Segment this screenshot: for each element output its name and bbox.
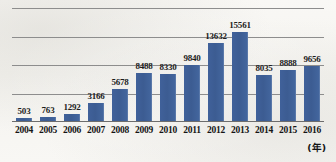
- bar-value-label: 763: [42, 106, 55, 115]
- bar-slot: 8330: [156, 8, 180, 121]
- bar-value-label: 9840: [183, 54, 200, 63]
- x-tick-label: 2014: [252, 125, 276, 136]
- bar: [256, 75, 272, 121]
- x-tick-label: 2006: [60, 125, 84, 136]
- bar-value-label: 8330: [159, 63, 176, 72]
- plot-area: 5037631292316656788488833098401363215561…: [12, 8, 324, 122]
- bar-value-label: 1292: [63, 103, 80, 112]
- x-tick-label: 2016: [300, 125, 324, 136]
- x-tick-label: 2011: [180, 125, 204, 136]
- bar-slot: 8035: [252, 8, 276, 121]
- bar-slot: 1292: [60, 8, 84, 121]
- bar-value-label: 15561: [229, 21, 251, 30]
- bar-value-label: 13632: [205, 32, 227, 41]
- x-tick-label: 2004: [12, 125, 36, 136]
- bar: [88, 103, 104, 121]
- x-tick-label: 2009: [132, 125, 156, 136]
- x-tick-label: 2005: [36, 125, 60, 136]
- bar: [112, 89, 128, 121]
- bar-slot: 15561: [228, 8, 252, 121]
- bar: [184, 65, 200, 121]
- bar-value-label: 8888: [279, 59, 296, 68]
- bar-value-label: 503: [18, 107, 31, 116]
- bar: [280, 70, 296, 121]
- bar: [208, 43, 224, 121]
- bar: [232, 32, 248, 121]
- bar: [304, 66, 320, 121]
- bar-slot: 503: [12, 8, 36, 121]
- x-tick-label: 2013: [228, 125, 252, 136]
- bar-slot: 3166: [84, 8, 108, 121]
- x-tick-label: 2010: [156, 125, 180, 136]
- bar-value-label: 8488: [135, 62, 152, 71]
- bar-value-label: 8035: [255, 64, 272, 73]
- bar: [160, 74, 176, 121]
- bar-slot: 5678: [108, 8, 132, 121]
- bar-slot: 763: [36, 8, 60, 121]
- bar-slot: 13632: [204, 8, 228, 121]
- x-axis-unit-label: (年): [307, 140, 326, 154]
- bar-value-label: 3166: [87, 92, 104, 101]
- x-tick-label: 2008: [108, 125, 132, 136]
- bar-slot: 9840: [180, 8, 204, 121]
- bar-slot: 8488: [132, 8, 156, 121]
- x-axis-tick-labels: 2004200520062007200820092010201120122013…: [12, 125, 324, 136]
- bar-value-label: 9656: [303, 55, 320, 64]
- bar-value-label: 5678: [111, 78, 128, 87]
- bar: [136, 73, 152, 121]
- bar-slot: 8888: [276, 8, 300, 121]
- x-tick-label: 2012: [204, 125, 228, 136]
- x-axis-line: [12, 121, 324, 123]
- x-tick-label: 2015: [276, 125, 300, 136]
- bar-series: 5037631292316656788488833098401363215561…: [12, 8, 324, 121]
- bar-chart-figure: 5037631292316656788488833098401363215561…: [0, 0, 336, 162]
- x-tick-label: 2007: [84, 125, 108, 136]
- bar-slot: 9656: [300, 8, 324, 121]
